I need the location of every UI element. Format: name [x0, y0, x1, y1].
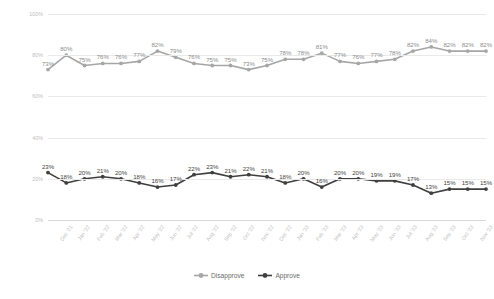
data-point [411, 49, 415, 53]
data-label: 82% [480, 41, 492, 48]
y-axis-tick-label: 60% [32, 93, 43, 99]
data-point [83, 64, 87, 68]
data-point [283, 57, 287, 61]
data-label: 15% [480, 179, 492, 186]
data-label: 78% [389, 49, 401, 56]
data-label: 78% [279, 49, 291, 56]
x-axis-tick-label: Feb '23 [314, 224, 329, 242]
data-label: 77% [370, 51, 382, 58]
data-label: 80% [60, 45, 72, 52]
data-point [137, 59, 141, 63]
x-axis-tick-label: May '23 [369, 224, 384, 243]
data-point [429, 45, 433, 49]
data-label: 82% [462, 41, 474, 48]
legend-item[interactable]: Disapprove [194, 272, 244, 279]
x-axis-tick-label: Jan '23 [295, 224, 310, 241]
data-point [64, 181, 68, 185]
data-point [46, 171, 50, 175]
data-label: 75% [261, 56, 273, 63]
data-label: 75% [78, 56, 90, 63]
x-axis-tick-label: Oct '23 [460, 224, 474, 241]
data-label: 15% [462, 179, 474, 186]
x-axis-tick-label: Dec '22 [278, 224, 293, 242]
x-axis-tick-label: Mar '23 [332, 224, 347, 242]
data-label: 77% [133, 51, 145, 58]
data-label: 20% [78, 169, 90, 176]
data-label: 84% [425, 37, 437, 44]
data-label: 76% [115, 53, 127, 60]
legend-label: Disapprove [211, 272, 244, 279]
legend-marker-icon [258, 272, 272, 279]
x-axis-tick-label: Oct '22 [241, 224, 255, 241]
data-label: 16% [316, 177, 328, 184]
data-label: 82% [443, 41, 455, 48]
data-point [448, 49, 452, 53]
x-axis-tick-label: Mar '22 [113, 224, 128, 242]
line-chart: Share of respondents 100%80%60%40%20%0%7… [0, 0, 494, 299]
data-label: 19% [389, 171, 401, 178]
data-label: 22% [188, 165, 200, 172]
data-point [192, 173, 196, 177]
data-label: 20% [115, 169, 127, 176]
data-point [484, 187, 488, 191]
x-axis-tick-label: Sep '23 [442, 224, 457, 242]
data-label: 22% [243, 165, 255, 172]
data-point [46, 68, 50, 72]
gridline [48, 96, 486, 97]
data-point [247, 68, 251, 72]
data-label: 19% [370, 171, 382, 178]
data-label: 78% [297, 49, 309, 56]
y-axis-tick-label: 80% [32, 52, 43, 58]
data-point [320, 185, 324, 189]
data-point [137, 181, 141, 185]
data-label: 21% [97, 167, 109, 174]
data-point [466, 49, 470, 53]
x-axis-tick-label: Jun '22 [168, 224, 183, 241]
data-label: 13% [425, 183, 437, 190]
series-lines [48, 14, 486, 220]
data-point [265, 64, 269, 68]
x-axis-tick-label: Jul '22 [185, 224, 199, 240]
data-label: 21% [224, 167, 236, 174]
data-point [429, 191, 433, 195]
x-axis-tick-label: Jun '23 [387, 224, 402, 241]
data-point [448, 187, 452, 191]
data-point [466, 187, 470, 191]
x-axis-tick-label: Apr '23 [350, 224, 364, 241]
x-axis-tick-label: Aug '23 [424, 224, 439, 242]
gridline [48, 179, 486, 180]
data-label: 15% [443, 179, 455, 186]
gridline [48, 220, 486, 221]
gridline [48, 138, 486, 139]
data-point [156, 185, 160, 189]
chart-legend: DisapproveApprove [0, 272, 494, 279]
legend-label: Approve [275, 272, 300, 279]
data-point [302, 57, 306, 61]
data-label: 76% [352, 53, 364, 60]
data-label: 23% [42, 163, 54, 170]
x-axis-tick-label: May '22 [150, 224, 165, 243]
legend-item[interactable]: Approve [258, 272, 300, 279]
data-point [338, 59, 342, 63]
data-point [229, 64, 233, 68]
data-point [101, 62, 105, 66]
data-label: 79% [170, 47, 182, 54]
x-axis-tick-label: Nov '23 [478, 224, 493, 242]
data-point [174, 183, 178, 187]
data-label: 20% [297, 169, 309, 176]
data-point [192, 62, 196, 66]
data-label: 23% [206, 163, 218, 170]
data-label: 20% [334, 169, 346, 176]
data-label: 77% [334, 51, 346, 58]
data-label: 82% [407, 41, 419, 48]
data-label: 73% [243, 60, 255, 67]
data-label: 18% [60, 173, 72, 180]
data-point [375, 59, 379, 63]
legend-marker-icon [194, 272, 208, 279]
data-point [156, 49, 160, 53]
data-label: 75% [206, 56, 218, 63]
x-axis-tick-label: Jan '22 [76, 224, 91, 241]
data-point [119, 62, 123, 66]
data-label: 73% [42, 60, 54, 67]
data-label: 17% [170, 175, 182, 182]
